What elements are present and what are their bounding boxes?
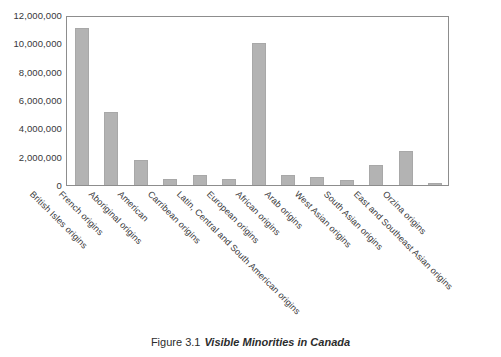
bar [428, 183, 442, 185]
y-tick-label: 8,000,000 [19, 68, 62, 78]
bar [340, 180, 354, 185]
y-tick-label: 12,000,000 [13, 11, 62, 21]
bar [222, 179, 236, 185]
x-axis: British Isles originsFrench originsAbori… [0, 187, 501, 307]
x-tick-label: Aboriginal origins [87, 189, 144, 246]
bar [75, 28, 89, 185]
bar [163, 179, 177, 185]
bar [310, 177, 324, 185]
y-axis: 12,000,00010,000,0008,000,0006,000,0004,… [0, 10, 65, 192]
figure-caption: Figure 3.1Visible Minorities in Canada [0, 336, 501, 348]
x-tick-label: Carribean origins [145, 189, 202, 246]
plot-frame [66, 16, 449, 186]
bar [281, 175, 295, 185]
bar [134, 160, 148, 186]
bar [252, 43, 266, 185]
bar [369, 165, 383, 185]
bar [193, 175, 207, 185]
y-tick-label: 2,000,000 [19, 153, 62, 163]
y-tick-label: 4,000,000 [19, 125, 62, 135]
figure-container: 12,000,00010,000,0008,000,0006,000,0004,… [0, 0, 501, 357]
plot-area [67, 17, 448, 185]
y-tick-label: 10,000,000 [13, 40, 62, 50]
caption-title: Visible Minorities in Canada [204, 336, 350, 348]
y-tick-label: 6,000,000 [19, 96, 62, 106]
caption-number: Figure 3.1 [151, 336, 201, 348]
bar [104, 112, 118, 185]
x-tick-label: European origins [204, 189, 260, 245]
bar [399, 151, 413, 185]
